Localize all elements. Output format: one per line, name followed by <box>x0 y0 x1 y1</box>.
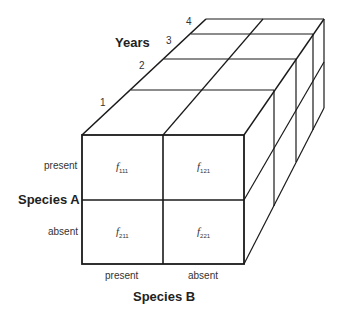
species-b-absent-label: absent <box>188 270 218 281</box>
year-tick-4: 4 <box>186 16 192 27</box>
years-axis-title: Years <box>115 35 150 50</box>
species-a-title: Species A <box>18 192 80 207</box>
cell-f211: f211 <box>116 225 129 239</box>
cell-f221: f221 <box>197 225 210 239</box>
year-tick-3: 3 <box>166 35 172 46</box>
cell-f111: f111 <box>116 160 128 174</box>
species-a-absent-label: absent <box>48 226 78 237</box>
species-b-present-label: present <box>105 270 138 281</box>
species-b-title: Species B <box>133 289 195 304</box>
species-a-present-label: present <box>44 160 77 171</box>
year-tick-2: 2 <box>139 60 145 71</box>
year-tick-1: 1 <box>100 97 106 108</box>
cell-f121: f121 <box>197 160 210 174</box>
